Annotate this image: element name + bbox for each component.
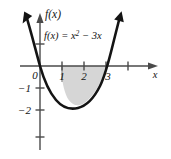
y-label-neg1: −1 <box>18 82 31 94</box>
plot-canvas: 0 1 2 3 −1 −2 f(x) f(x) = x2 − 3x x <box>0 0 171 159</box>
x-axis-name-label: x <box>152 69 158 80</box>
function-name-label: f(x) <box>45 8 61 21</box>
x-label-0: 0 <box>32 69 38 81</box>
x-label-3: 3 <box>104 70 111 82</box>
x-label-2: 2 <box>81 70 87 82</box>
curve-right-arrowhead <box>114 11 124 22</box>
x-label-1: 1 <box>59 70 65 82</box>
equation-rhs: − 3x <box>79 30 102 41</box>
y-axis-arrowhead <box>36 13 43 23</box>
equation-lhs: f(x) = x <box>44 30 76 42</box>
equation-label: f(x) = x2 − 3x <box>44 29 102 43</box>
y-label-neg2: −2 <box>18 104 31 116</box>
figure-parabola-shaded-area: 0 1 2 3 −1 −2 f(x) f(x) = x2 − 3x x <box>0 0 171 159</box>
